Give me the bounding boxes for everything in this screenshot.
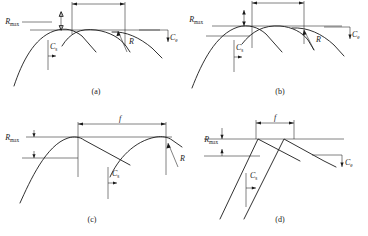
panel-c-rmax-dimension [32,130,35,158]
panel-c-surface-profile [20,137,182,203]
panel-c-rmax-label: Rmax [4,133,19,143]
panel-d-feed-dimension [256,120,294,139]
panel-d-surface-profile [220,139,336,219]
panel-b-ce-angle [324,27,352,39]
panel-d-ce-label: Ce [345,158,353,168]
panel-d-rmax-label: Rmax [203,135,218,145]
panel-d-cs-label: Cs [250,171,257,181]
panel-a-cs-label: Cs [50,42,57,52]
panel-c-caption: (c) [88,215,97,224]
panel-a-rmax-dimension [59,12,63,30]
figure-root: Rmax R Cs [0,0,368,236]
panel-a-caption-wrap: (a) [66,80,126,98]
panel-b-rmax-dimension [242,10,246,26]
panel-b-rmax-label: Rmax [188,15,203,25]
panel-b-surface-profile [192,26,344,88]
panel-b-ce-label: Ce [352,30,360,40]
panel-c-cs-label: Cs [112,169,119,179]
panel-a-ce-angle [139,30,170,42]
panel-d-caption: (d) [275,215,284,224]
panel-b-radius-label: R [315,35,321,44]
panel-c-feed-dimension [78,122,166,177]
panel-a-surface-profile [14,29,162,86]
panel-c-caption-wrap: (c) [62,208,122,226]
panel-a-feed-dimension [72,2,125,46]
panel-b-feed-dimension [252,1,304,48]
panel-c-feed-label: f [119,114,123,123]
panel-a-rmax-label: Rmax [4,17,19,27]
panel-a-ce-label: Ce [170,33,178,43]
panel-c-radius-leader [166,143,178,167]
panel-b-caption: (b) [275,87,284,96]
panel-a-caption: (a) [92,87,101,96]
panel-d-feed-label: f [274,113,278,122]
panel-b-caption-wrap: (b) [250,80,310,98]
panel-b-cs-label: Cs [236,43,243,53]
panel-d-caption-wrap: (d) [250,208,310,226]
panel-a-radius-label: R [128,37,134,46]
panel-d-rmax-dimension [220,128,223,156]
